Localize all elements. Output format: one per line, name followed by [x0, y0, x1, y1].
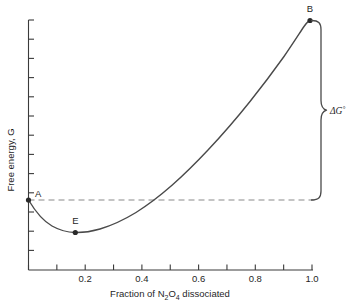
- point-label-A: A: [35, 188, 42, 199]
- x-tick-label-0.4: 0.4: [135, 273, 148, 284]
- x-axis-label: Fraction of N2O4 dissociated: [110, 288, 230, 301]
- point-labels-group: A E B: [35, 3, 313, 226]
- point-label-E: E: [72, 215, 78, 226]
- delta-g-annotation: ΔG°: [329, 105, 345, 116]
- x-tick-labels: 0.2 0.4 0.6 0.8 1.0: [79, 273, 319, 284]
- x-axis-label-suffix: dissociated: [180, 288, 230, 299]
- data-points-group: [26, 18, 313, 235]
- chart-svg: 0.2 0.4 0.6 0.8 1.0 A E B ΔG° Free energ…: [0, 0, 356, 307]
- x-axis-label-mid: O: [168, 288, 175, 299]
- free-energy-chart: 0.2 0.4 0.6 0.8 1.0 A E B ΔG° Free energ…: [0, 0, 356, 307]
- x-tick-label-1.0: 1.0: [305, 273, 318, 284]
- x-tick-label-0.6: 0.6: [192, 273, 205, 284]
- y-axis-label: Free energy, G: [5, 128, 16, 191]
- x-axis-label-prefix: Fraction of N: [110, 288, 165, 299]
- free-energy-curve: [29, 21, 311, 233]
- point-label-B: B: [307, 3, 313, 14]
- data-point-A: [26, 197, 31, 202]
- x-tick-label-0.2: 0.2: [79, 273, 92, 284]
- data-point-E: [73, 230, 78, 235]
- x-tick-label-0.8: 0.8: [249, 273, 262, 284]
- x-axis-ticks: [29, 265, 313, 271]
- y-axis-ticks: [29, 20, 35, 250]
- delta-g-brace: [312, 21, 327, 201]
- degree-symbol: °: [342, 105, 345, 113]
